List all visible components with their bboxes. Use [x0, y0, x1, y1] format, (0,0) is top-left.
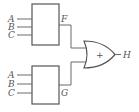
wire-f-to-gate — [59, 25, 87, 48]
or-gate-symbol: + — [96, 50, 104, 60]
wire-g-to-gate — [59, 62, 87, 85]
bottom-block-box — [32, 66, 59, 104]
top-input-c-label: C — [8, 30, 15, 40]
top-block-box — [32, 4, 59, 45]
output-g-label: G — [61, 88, 68, 98]
bottom-input-c-label: C — [8, 88, 15, 98]
output-h-label: H — [122, 50, 131, 60]
output-f-label: F — [60, 14, 68, 24]
or-gate: + H — [84, 41, 131, 68]
top-block: A B C F — [7, 4, 68, 45]
logic-diagram: A B C F A B C G + H — [0, 0, 139, 112]
